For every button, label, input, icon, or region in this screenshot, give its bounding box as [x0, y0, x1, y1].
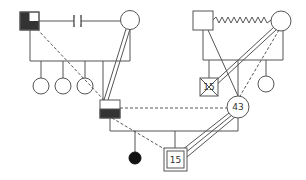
father-square-dark-half	[100, 109, 120, 118]
deceased-child-dot	[129, 152, 141, 164]
grandfather-right-square	[193, 11, 213, 30]
very-close-line-c	[187, 117, 235, 157]
right-daughter-circle	[258, 76, 274, 92]
grandmother-right-circle	[271, 11, 291, 31]
daughter-1-circle	[33, 78, 49, 94]
white-quadrant	[30, 13, 39, 22]
very-close-line-b	[185, 115, 232, 153]
index-person-age: 15	[170, 155, 181, 165]
genogram-diagram: 15 43 15	[0, 0, 306, 180]
grandmother-left-circle	[121, 11, 140, 30]
conflict-zigzag-line	[213, 17, 271, 23]
close-line-a	[104, 29, 126, 100]
daughter-2-circle	[55, 78, 71, 94]
mother-age: 43	[232, 102, 243, 112]
close-line-b	[108, 29, 130, 100]
distant-line-son-index	[112, 118, 166, 150]
deceased-son-age: 15	[203, 82, 214, 92]
